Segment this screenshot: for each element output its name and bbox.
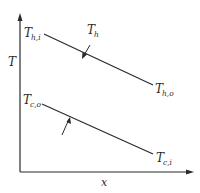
hot-stream-name-label: T h [87, 23, 99, 39]
x-axis-arrow-icon [186, 170, 194, 175]
svg-text:c,i: c,i [163, 158, 173, 167]
temperature-profile-diagram: T x T h,i T h T h,o T c,o T c,i [0, 0, 200, 193]
cold-outlet-label: T c,o [23, 93, 42, 109]
svg-text:c,o: c,o [30, 100, 42, 109]
y-axis-arrow-icon [18, 13, 23, 21]
cold-inlet-label: T c,i [156, 151, 173, 167]
cold-stream-line [42, 104, 153, 154]
hot-outlet-label: T h,o [155, 82, 174, 98]
x-axis-label: x [101, 176, 108, 189]
svg-text:h: h [94, 30, 99, 39]
svg-text:h,o: h,o [162, 89, 174, 98]
hot-inlet-label: T h,i [24, 26, 41, 42]
hot-stream-line [44, 34, 153, 85]
y-axis-label: T [8, 55, 17, 69]
svg-text:h,i: h,i [31, 33, 41, 42]
